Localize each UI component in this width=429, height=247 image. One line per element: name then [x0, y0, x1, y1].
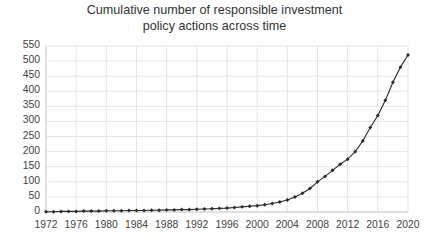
data-point-marker	[285, 198, 289, 202]
x-axis-tick-label: 1976	[59, 219, 93, 230]
x-axis-tick-label: 2000	[240, 219, 274, 230]
data-point-marker	[195, 207, 199, 211]
y-axis-tick-label: 50	[10, 190, 40, 201]
data-point-marker	[263, 203, 267, 207]
x-axis-tick-label: 1980	[89, 219, 123, 230]
x-axis-tick-label: 1992	[180, 219, 214, 230]
chart-container: Cumulative number of responsible investm…	[0, 0, 429, 247]
x-axis-tick-label: 1972	[29, 219, 63, 230]
y-axis-tick-label: 100	[10, 175, 40, 186]
y-axis-tick-label: 550	[10, 39, 40, 50]
x-axis-tick-label: 2016	[361, 219, 395, 230]
data-point-marker	[210, 207, 214, 211]
y-axis-tick-label: 450	[10, 69, 40, 80]
data-point-marker	[165, 208, 169, 212]
data-point-marker	[187, 208, 191, 212]
data-point-marker	[293, 195, 297, 199]
data-point-marker	[391, 80, 395, 84]
data-point-marker	[180, 208, 184, 212]
data-point-marker	[74, 209, 78, 213]
y-axis-tick-label: 150	[10, 160, 40, 171]
data-point-marker	[202, 207, 206, 211]
data-point-marker	[383, 98, 387, 102]
x-axis-tick-label: 2004	[270, 219, 304, 230]
data-point-marker	[59, 209, 63, 213]
plot-area	[0, 0, 429, 247]
data-point-marker	[67, 209, 71, 213]
x-axis-tick-label: 1984	[120, 219, 154, 230]
data-point-marker	[233, 205, 237, 209]
data-point-marker	[255, 204, 259, 208]
data-point-marker	[172, 208, 176, 212]
x-axis-tick-label: 2008	[301, 219, 335, 230]
x-axis-tick-label: 1988	[150, 219, 184, 230]
data-point-marker	[44, 210, 48, 214]
x-axis-tick-label: 2012	[331, 219, 365, 230]
y-axis-tick-label: 400	[10, 84, 40, 95]
data-point-marker	[270, 202, 274, 206]
data-point-marker	[52, 210, 56, 214]
y-axis-tick-label: 200	[10, 145, 40, 156]
data-point-marker	[217, 206, 221, 210]
y-axis-tick-label: 0	[10, 205, 40, 216]
data-point-marker	[278, 200, 282, 204]
x-axis-tick-label: 1996	[210, 219, 244, 230]
y-axis-tick-label: 350	[10, 99, 40, 110]
x-axis-tick-label: 2020	[391, 219, 425, 230]
data-point-marker	[248, 204, 252, 208]
data-point-marker	[225, 206, 229, 210]
y-axis-tick-label: 500	[10, 54, 40, 65]
y-axis-tick-label: 300	[10, 114, 40, 125]
data-point-marker	[240, 205, 244, 209]
grid-lines	[46, 46, 408, 212]
y-axis-tick-label: 250	[10, 130, 40, 141]
